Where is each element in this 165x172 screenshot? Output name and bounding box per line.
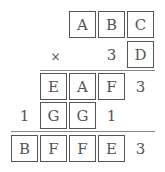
product-rule-1: [40, 70, 155, 71]
digit-3: 3: [98, 41, 125, 68]
digit-box-F: F: [69, 135, 96, 162]
digit-1: 1: [98, 102, 125, 129]
digit-3: 3: [127, 73, 154, 100]
digit-box-G: G: [40, 102, 67, 129]
multiply-sign: ×: [42, 43, 69, 70]
digit-box-C: C: [127, 11, 154, 38]
digit-box-E: E: [40, 73, 67, 100]
digit-box-G: G: [69, 102, 96, 129]
digit-3: 3: [127, 135, 154, 162]
digit-box-B: B: [11, 135, 38, 162]
digit-box-F: F: [40, 135, 67, 162]
digit-box-E: E: [98, 135, 125, 162]
digit-box-A: A: [69, 11, 96, 38]
digit-box-B: B: [98, 11, 125, 38]
digit-box-D: D: [127, 41, 154, 68]
digit-box-A: A: [69, 73, 96, 100]
product-rule-2: [11, 131, 155, 132]
digit-box-F: F: [98, 73, 125, 100]
digit-1: 1: [11, 102, 38, 129]
